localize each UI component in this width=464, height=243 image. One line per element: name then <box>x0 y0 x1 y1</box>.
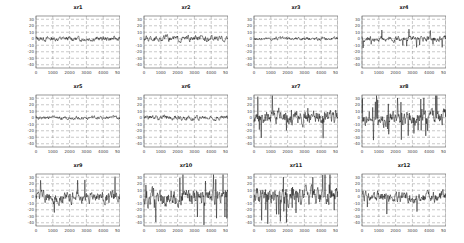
svg-text:30: 30 <box>29 17 35 22</box>
svg-text:0: 0 <box>357 36 360 41</box>
svg-text:30: 30 <box>355 96 361 101</box>
svg-text:1000: 1000 <box>156 70 167 75</box>
subplot-xr7: xr73020100-10-20-30-40010002000300040005… <box>226 83 338 161</box>
svg-text:3000: 3000 <box>81 228 92 233</box>
svg-text:4000: 4000 <box>98 70 109 75</box>
svg-text:3000: 3000 <box>407 149 418 154</box>
svg-text:1000: 1000 <box>266 149 277 154</box>
svg-text:-40: -40 <box>27 141 34 146</box>
plot-area: 3020100-10-20-30-40010002000300040005000 <box>334 4 446 82</box>
svg-text:10: 10 <box>247 30 253 35</box>
svg-text:-40: -40 <box>27 220 34 225</box>
svg-text:10: 10 <box>355 109 361 114</box>
svg-text:10: 10 <box>29 109 35 114</box>
svg-text:-40: -40 <box>353 141 360 146</box>
svg-text:-10: -10 <box>27 201 34 206</box>
subplot-xr2: xr23020100-10-20-30-40010002000300040005… <box>116 4 228 82</box>
svg-text:1000: 1000 <box>374 149 385 154</box>
svg-text:20: 20 <box>29 181 35 186</box>
svg-text:0: 0 <box>361 149 364 154</box>
svg-text:-40: -40 <box>245 220 252 225</box>
subplot-xr4: xr43020100-10-20-30-40010002000300040005… <box>334 4 446 82</box>
svg-text:4000: 4000 <box>98 228 109 233</box>
svg-text:2000: 2000 <box>283 228 294 233</box>
svg-text:0: 0 <box>249 115 252 120</box>
svg-text:2000: 2000 <box>391 70 402 75</box>
svg-text:10: 10 <box>355 188 361 193</box>
svg-text:20: 20 <box>355 102 361 107</box>
svg-text:3000: 3000 <box>407 70 418 75</box>
svg-text:4000: 4000 <box>98 149 109 154</box>
svg-text:30: 30 <box>247 175 253 180</box>
plot-area: 3020100-10-20-30-40010002000300040005000 <box>226 83 338 161</box>
subplot-xr3: xr33020100-10-20-30-40010002000300040005… <box>226 4 338 82</box>
svg-text:-10: -10 <box>353 122 360 127</box>
svg-text:30: 30 <box>29 96 35 101</box>
svg-text:-30: -30 <box>245 135 252 140</box>
svg-text:3000: 3000 <box>81 149 92 154</box>
svg-text:10: 10 <box>137 188 143 193</box>
svg-text:-30: -30 <box>353 214 360 219</box>
svg-text:-30: -30 <box>27 56 34 61</box>
svg-text:20: 20 <box>247 181 253 186</box>
svg-text:4000: 4000 <box>316 228 327 233</box>
svg-text:-10: -10 <box>245 122 252 127</box>
svg-text:2000: 2000 <box>173 70 184 75</box>
svg-text:-10: -10 <box>353 43 360 48</box>
plot-area: 3020100-10-20-30-40010002000300040005000 <box>226 162 338 240</box>
svg-text:0: 0 <box>253 70 256 75</box>
svg-text:4000: 4000 <box>424 228 435 233</box>
subplot-xr11: xr113020100-10-20-30-4001000200030004000… <box>226 162 338 240</box>
svg-text:0: 0 <box>249 194 252 199</box>
svg-text:10: 10 <box>355 30 361 35</box>
svg-text:-20: -20 <box>135 207 142 212</box>
svg-text:-10: -10 <box>27 122 34 127</box>
svg-text:2000: 2000 <box>65 149 76 154</box>
svg-text:-20: -20 <box>135 128 142 133</box>
svg-text:3000: 3000 <box>299 70 310 75</box>
svg-text:2000: 2000 <box>173 228 184 233</box>
svg-text:30: 30 <box>355 17 361 22</box>
svg-text:20: 20 <box>355 23 361 28</box>
svg-text:30: 30 <box>355 175 361 180</box>
svg-text:4000: 4000 <box>206 70 217 75</box>
svg-text:30: 30 <box>137 96 143 101</box>
svg-text:0: 0 <box>31 115 34 120</box>
svg-text:3000: 3000 <box>189 228 200 233</box>
svg-text:-40: -40 <box>135 141 142 146</box>
subplot-xr6: xr63020100-10-20-30-40010002000300040005… <box>116 83 228 161</box>
svg-text:0: 0 <box>357 194 360 199</box>
svg-text:-20: -20 <box>135 49 142 54</box>
svg-text:-30: -30 <box>135 56 142 61</box>
svg-text:-10: -10 <box>245 43 252 48</box>
svg-text:2000: 2000 <box>173 149 184 154</box>
svg-text:-40: -40 <box>245 141 252 146</box>
plot-area: 3020100-10-20-30-40010002000300040005000 <box>334 162 446 240</box>
svg-text:-30: -30 <box>353 135 360 140</box>
svg-text:1000: 1000 <box>266 70 277 75</box>
subplot-xr12: xr123020100-10-20-30-4001000200030004000… <box>334 162 446 240</box>
svg-text:0: 0 <box>361 70 364 75</box>
plot-area: 3020100-10-20-30-40010002000300040005000 <box>116 83 228 161</box>
svg-text:10: 10 <box>247 109 253 114</box>
svg-text:1000: 1000 <box>266 228 277 233</box>
svg-text:3000: 3000 <box>407 228 418 233</box>
svg-text:-30: -30 <box>353 56 360 61</box>
svg-text:4000: 4000 <box>316 149 327 154</box>
svg-text:3000: 3000 <box>299 228 310 233</box>
svg-text:0: 0 <box>139 36 142 41</box>
svg-text:-40: -40 <box>353 62 360 67</box>
svg-text:-30: -30 <box>135 214 142 219</box>
svg-text:4000: 4000 <box>206 149 217 154</box>
svg-text:10: 10 <box>137 109 143 114</box>
svg-text:0: 0 <box>361 228 364 233</box>
svg-text:0: 0 <box>357 115 360 120</box>
svg-text:2000: 2000 <box>391 228 402 233</box>
svg-text:-10: -10 <box>135 122 142 127</box>
svg-text:-40: -40 <box>135 62 142 67</box>
svg-text:-30: -30 <box>27 214 34 219</box>
svg-text:-10: -10 <box>135 201 142 206</box>
svg-text:-30: -30 <box>135 135 142 140</box>
svg-text:20: 20 <box>355 181 361 186</box>
svg-text:4000: 4000 <box>424 149 435 154</box>
